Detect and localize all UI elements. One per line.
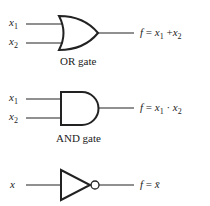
and-gate-symbol xyxy=(61,92,99,125)
or-gate-caption: OR gate xyxy=(60,55,96,67)
not-gate-symbol xyxy=(61,170,90,200)
or-gate-symbol xyxy=(59,16,98,50)
and-input-label-2: x2 xyxy=(9,111,18,122)
not-output-formula: f = x̄ xyxy=(140,179,160,190)
not-bubble xyxy=(91,181,99,189)
or-output-formula: f = x1 +x2 xyxy=(140,27,182,38)
and-input-label-1: x1 xyxy=(9,92,18,103)
or-input-label-1: x1 xyxy=(9,17,18,28)
not-input-label: x xyxy=(10,179,15,190)
or-input-label-2: x2 xyxy=(9,36,18,47)
and-output-formula: f = x1 · x2 xyxy=(140,102,182,113)
and-gate-caption: AND gate xyxy=(56,132,101,144)
